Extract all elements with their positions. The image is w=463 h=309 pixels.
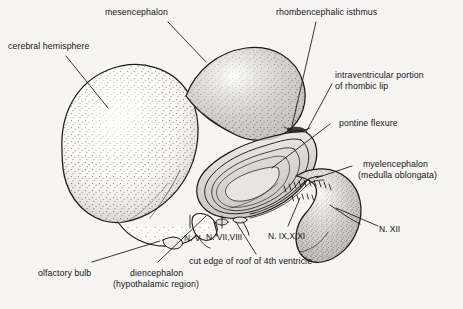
label-nerve-ix-x-xi: N. IX,X,XI (268, 231, 305, 242)
label-mesencephalon: mesencephalon (105, 7, 168, 18)
figure-canvas: mesencephalon cerebral hemisphere rhombe… (0, 0, 463, 309)
label-rhombencephalic-isthmus: rhombencephalic isthmus (276, 7, 377, 18)
label-nerve-v: N. V (184, 233, 200, 244)
label-myelencephalon-line1: myelencephalon (363, 159, 428, 170)
label-cerebral-hemisphere: cerebral hemisphere (8, 41, 89, 52)
label-myelencephalon-line2: (medulla oblongata) (358, 170, 437, 181)
label-nerve-vii-viii: N. VII,VIII (206, 232, 242, 243)
label-cut-edge-4th-ventricle: cut edge of roof of 4th ventricle (189, 256, 312, 267)
label-nerve-xii: N. XII (379, 224, 400, 235)
label-diencephalon-line1: diencephalon (130, 268, 183, 279)
label-diencephalon-line2: (hypothalamic region) (113, 279, 199, 290)
label-intraventricular-portion-line2: of rhombic lip (335, 81, 388, 92)
label-pontine-flexure: pontine flexure (339, 118, 398, 129)
label-olfactory-bulb: olfactory bulb (38, 268, 91, 279)
label-intraventricular-portion-line1: intraventricular portion (335, 70, 424, 81)
